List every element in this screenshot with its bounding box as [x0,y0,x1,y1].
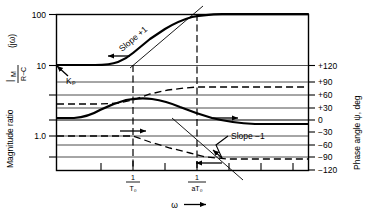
right-tick-label-m120: −120 [318,165,337,175]
bottom-tick-2-numerator: 1 [195,174,199,181]
left-axis-numerator: M [10,71,17,77]
right-tick-label-p60: +60 [318,90,333,100]
right-tick-label-m60: −60 [318,140,333,150]
right-tick-label-0: 0 [318,115,323,125]
annotation-slope-minus-1-label: Slope −1 [231,131,265,141]
left-axis-ticks [49,15,56,158]
left-axis-title-text: Magnitude ratio [5,109,15,168]
left-tick-labels: 100 10 1.0 [32,10,46,141]
omega-symbol: ω [171,200,178,210]
plot-svg: Kₚ Slope +1 Slope −1 100 10 1.0 +120 +90… [0,0,367,219]
right-tick-labels: +120 +90 +60 +30 0 −30 −60 −90 −120 [318,61,337,175]
annotation-kp-label: Kₚ [66,76,76,86]
bottom-tick-1-denominator: T₀ [129,185,136,192]
right-tick-label-m30: −30 [318,127,333,137]
bottom-axis-title: ω [171,200,206,210]
bottom-tick-label-1-over-aTD: 1 aT₀ [188,174,206,192]
left-axis-title: Magnitude ratio | M R−C (jω) [5,34,27,168]
left-axis-bracket: | [5,80,15,82]
right-axis-title: Phase angle ψ, deg [352,95,362,170]
left-tick-label-1: 1.0 [34,131,46,141]
bottom-tick-1-numerator: 1 [131,174,135,181]
right-tick-label-m90: −90 [318,152,333,162]
bottom-tick-label-1-over-TD: 1 T₀ [126,174,140,192]
left-tick-label-100: 100 [32,10,46,20]
right-tick-label-p90: +90 [318,77,333,87]
left-axis-denominator: R−C [20,67,27,81]
bottom-tick-2-denominator: aT₀ [191,185,202,192]
left-tick-label-10: 10 [37,61,47,71]
right-tick-label-p30: +30 [318,103,333,113]
plot-frame [57,15,309,171]
bode-plot-figure: Kₚ Slope +1 Slope −1 100 10 1.0 +120 +90… [0,0,367,219]
right-axis-title-text: Phase angle ψ, deg [352,95,362,170]
right-tick-label-p120: +120 [318,61,337,71]
left-axis-argument: (jω) [7,34,17,48]
